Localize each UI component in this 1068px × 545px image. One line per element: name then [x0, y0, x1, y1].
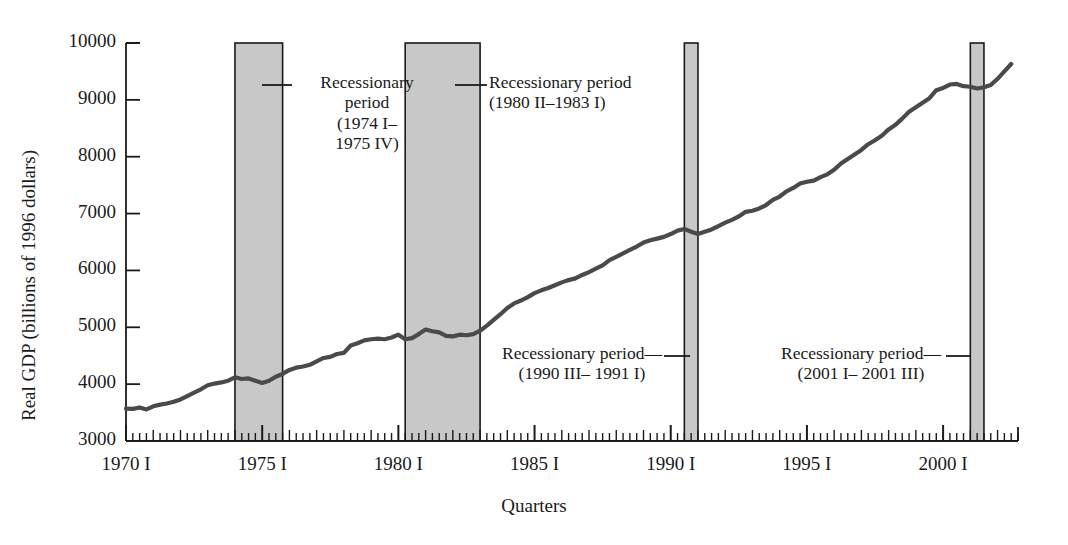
annotation-line: Recessionary [292, 72, 442, 92]
x-tick-label: 1995 I [747, 453, 867, 475]
x-tick-label: 1980 I [338, 453, 458, 475]
annotation-line: (2001 I– 2001 III) [772, 363, 950, 383]
x-tick-label: 1970 I [66, 453, 186, 475]
annotation-line: period [292, 92, 442, 112]
annotation-line: Recessionary period— [494, 343, 670, 363]
annotation-recession-1980: Recessionary period (1980 II–1983 I) [489, 72, 699, 113]
y-tick-label: 8000 [38, 144, 116, 166]
annotation-recession-2001: Recessionary period— (2001 I– 2001 III) [772, 343, 950, 384]
annotation-recession-1974: Recessionary period (1974 I– 1975 IV) [292, 72, 442, 153]
x-axis-title: Quarters [0, 495, 1068, 517]
x-tick-label: 1985 I [475, 453, 595, 475]
y-tick-label: 9000 [38, 87, 116, 109]
y-tick-label: 5000 [38, 314, 116, 336]
y-axis-title: Real GDP (billions of 1996 dollars) [18, 150, 40, 421]
y-tick-label: 10000 [38, 30, 116, 52]
annotation-line: Recessionary period [489, 72, 699, 92]
y-tick-label: 4000 [38, 371, 116, 393]
x-tick-label: 1975 I [202, 453, 322, 475]
y-tick-label: 6000 [38, 257, 116, 279]
annotation-line: (1990 III– 1991 I) [494, 363, 670, 383]
x-tick-label: 2000 I [883, 453, 1003, 475]
y-tick-label: 3000 [38, 428, 116, 450]
annotation-line: (1980 II–1983 I) [489, 92, 699, 112]
y-tick-label: 7000 [38, 201, 116, 223]
gdp-recession-chart: Real GDP (billions of 1996 dollars) Quar… [0, 0, 1068, 545]
recession-band [970, 43, 984, 441]
x-tick-label: 1990 I [611, 453, 731, 475]
annotation-line: 1975 IV) [292, 133, 442, 153]
annotation-line: Recessionary period— [772, 343, 950, 363]
annotation-recession-1990: Recessionary period— (1990 III– 1991 I) [494, 343, 670, 384]
annotation-line: (1974 I– [292, 113, 442, 133]
